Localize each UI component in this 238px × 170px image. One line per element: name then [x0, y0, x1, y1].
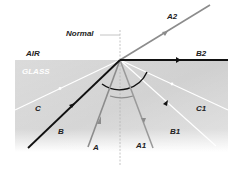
label-C1: C1	[196, 104, 206, 113]
air-label: AIR	[26, 49, 40, 58]
label-B: B	[58, 127, 64, 136]
label-A1: A1	[136, 141, 146, 150]
label-A: A	[93, 143, 99, 152]
refraction-diagram: Normal AIR GLASS A2 B2 C C1 B B1 A A1	[0, 0, 238, 170]
label-C: C	[35, 104, 41, 113]
label-A2: A2	[167, 12, 177, 21]
glass-label: GLASS	[22, 67, 50, 76]
ray-C1-arrow-icon	[171, 83, 174, 86]
ray-C-arrow-icon	[59, 87, 62, 90]
label-B1: B1	[170, 127, 180, 136]
diagram-canvas	[0, 0, 238, 170]
normal-label: Normal	[66, 29, 94, 38]
label-B2: B2	[196, 49, 206, 58]
